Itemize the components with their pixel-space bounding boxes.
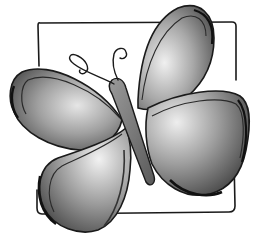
upper-left-wing [10, 69, 122, 150]
butterfly-artwork [0, 0, 256, 248]
butterfly-illustration [0, 0, 256, 248]
lower-right-wing [146, 91, 249, 195]
antennae [70, 48, 127, 84]
